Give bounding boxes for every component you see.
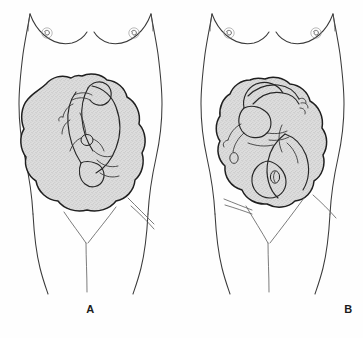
nipple-right-b [311,28,321,38]
gravid-uterus-b [216,77,326,207]
figure-panel-a: A [0,0,181,338]
panel-a-illustration [0,0,181,300]
nipple-right-a [129,28,139,38]
breast-left-b [210,14,269,44]
nipple-left-b [224,28,234,38]
breast-right-b [276,14,335,44]
panel-b-label: B [182,302,363,316]
breast-left-a [28,14,87,44]
pelvic-crease-b [224,195,336,292]
figure-panel-b: B [182,0,363,338]
nipple-left-a [42,28,52,38]
pelvic-crease-a [64,198,154,292]
gravid-uterus-a [21,74,145,211]
breast-right-a [94,14,153,44]
panel-b-illustration [182,0,363,300]
twin-presentation-figure-plate: A [0,0,363,338]
